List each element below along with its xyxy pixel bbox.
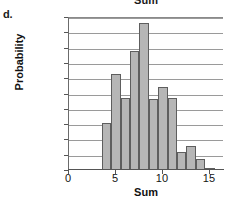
gridline	[69, 18, 223, 19]
x-tick-mark	[209, 170, 210, 174]
y-tick-mark	[64, 124, 68, 125]
histogram-bar	[177, 152, 186, 170]
y-tick-mark	[64, 109, 68, 110]
y-tick-mark	[64, 155, 68, 156]
histogram-bar	[186, 146, 195, 170]
histogram-bar	[130, 51, 139, 170]
y-axis-label: Probability	[13, 14, 25, 110]
y-tick-mark	[64, 63, 68, 64]
x-axis-label: Sum	[68, 186, 224, 198]
histogram-figure: d. Sum Probability 00.020.040.060.080.10…	[0, 0, 230, 204]
histogram-bar	[168, 98, 177, 170]
plot-area	[68, 17, 223, 170]
y-tick-mark	[64, 32, 68, 33]
y-tick-mark	[64, 78, 68, 79]
chart-title: Sum	[68, 0, 224, 6]
y-tick-mark	[64, 48, 68, 49]
histogram-bar	[149, 99, 158, 170]
x-axis-line	[68, 169, 224, 170]
histogram-bar	[158, 87, 167, 170]
histogram-bar	[111, 74, 120, 170]
x-tick-mark	[162, 170, 163, 174]
y-tick-mark	[64, 139, 68, 140]
x-tick-mark	[115, 170, 116, 174]
histogram-bar	[121, 98, 130, 170]
y-tick-mark	[64, 94, 68, 95]
y-tick-mark	[64, 17, 68, 18]
part-label: d.	[3, 8, 12, 20]
histogram-bar	[139, 23, 148, 170]
histogram-bar	[102, 123, 111, 170]
x-tick-mark	[68, 170, 69, 174]
plot-inner	[69, 18, 223, 170]
